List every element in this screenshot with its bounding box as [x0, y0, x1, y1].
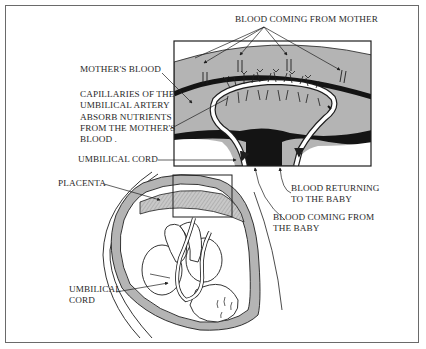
placenta-diagram — [0, 0, 426, 349]
uterus-fetus-illustration — [103, 172, 282, 338]
label-blood-from-baby: BLOOD COMING FROM THE BABY — [273, 212, 374, 235]
label-mothers-blood: MOTHER'S BLOOD — [80, 64, 161, 75]
label-blood-returning: BLOOD RETURNING TO THE BABY — [291, 183, 380, 206]
inset-magnified-placenta — [174, 41, 372, 166]
label-capillaries: CAPILLARIES OF THE UMBILICAL ARTERY ABSO… — [80, 89, 176, 145]
leader-blood-returning — [280, 168, 291, 193]
label-umbilical-cord-bottom: UMBILICAL CORD — [69, 284, 121, 307]
label-blood-from-mother: BLOOD COMING FROM MOTHER — [235, 14, 378, 25]
label-placenta: PLACENTA — [58, 178, 106, 189]
label-umbilical-cord-top: UMBILICAL CORD — [78, 154, 158, 165]
